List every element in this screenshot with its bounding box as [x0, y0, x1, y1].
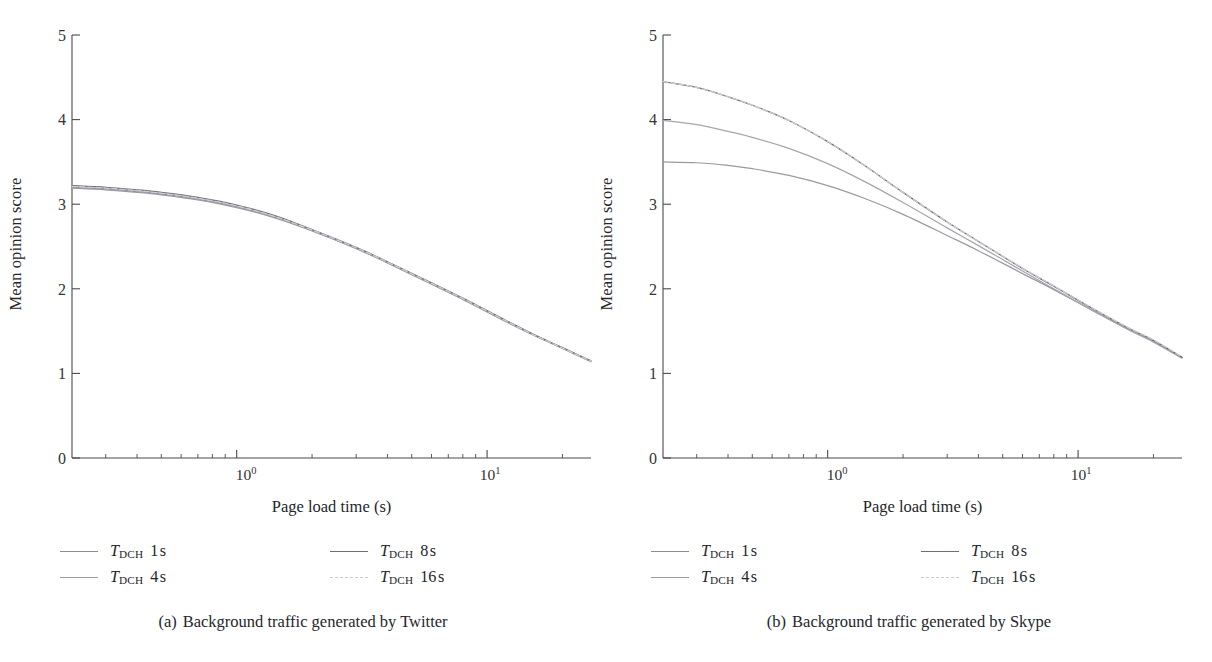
x-tick-label-1e1: 101: [1056, 466, 1106, 484]
y-tick-label-0: 0: [635, 450, 657, 468]
plot-a-xlabel: Page load time (s): [72, 497, 591, 517]
y-tick-label-3: 3: [44, 196, 66, 214]
legend-label-8s: TDCH8s: [971, 542, 1027, 561]
series-line: [72, 187, 591, 361]
legend-swatch-4s: [651, 577, 689, 578]
series-line: [72, 186, 591, 361]
legend-item-1s[interactable]: TDCH1s: [651, 538, 757, 564]
legend-item-8s[interactable]: TDCH8s: [330, 538, 436, 564]
plot-a-axes: [72, 35, 591, 458]
legend-swatch-16s: [921, 577, 959, 578]
y-tick-label-0: 0: [44, 450, 66, 468]
x-tick-label-1e0: 100: [221, 466, 271, 484]
legend-label-1s: TDCH1s: [701, 542, 757, 561]
y-tick-label-2: 2: [635, 281, 657, 299]
plot-a-ylabel: Mean opinion score: [6, 144, 26, 344]
legend-swatch-8s: [921, 551, 959, 552]
y-tick-label-2: 2: [44, 281, 66, 299]
legend-item-4s[interactable]: TDCH4s: [60, 564, 166, 590]
y-tick-label-1: 1: [635, 365, 657, 383]
plot-b-svg: [606, 0, 1212, 500]
series-line: [72, 186, 591, 361]
y-tick-label-3: 3: [635, 196, 657, 214]
legend-swatch-1s: [651, 551, 689, 552]
plot-b-ylabel: Mean opinion score: [597, 144, 617, 344]
legend-item-16s[interactable]: TDCH16s: [330, 564, 444, 590]
legend-label-4s: TDCH4s: [701, 568, 757, 587]
figure-container: Mean opinion score Page load time (s) 5 …: [0, 0, 1212, 662]
series-line: [663, 162, 1182, 357]
x-tick-label-1e0: 100: [812, 466, 862, 484]
plot-a-y-ticks: [72, 35, 80, 458]
plot-b-xlabel: Page load time (s): [663, 497, 1182, 517]
caption-a-text: Background traffic generated by Twitter: [183, 612, 448, 631]
legend-label-8s: TDCH8s: [380, 542, 436, 561]
legend-swatch-16s: [330, 577, 368, 578]
legend-item-4s[interactable]: TDCH4s: [651, 564, 757, 590]
plot-b-axes: [663, 35, 1182, 458]
plot-a-x-ticks: [106, 450, 563, 458]
y-tick-label-1: 1: [44, 365, 66, 383]
legend-label-4s: TDCH4s: [110, 568, 166, 587]
caption-b-text: Background traffic generated by Skype: [792, 612, 1051, 631]
legend-item-8s[interactable]: TDCH8s: [921, 538, 1027, 564]
y-tick-label-4: 4: [635, 111, 657, 129]
series-line: [663, 120, 1182, 358]
legend-swatch-1s: [60, 551, 98, 552]
legend-label-16s: TDCH16s: [380, 568, 444, 587]
plot-a-series: [72, 186, 591, 362]
legend-label-16s: TDCH16s: [971, 568, 1035, 587]
plot-b-x-ticks: [697, 450, 1154, 458]
caption-a: (a)Background traffic generated by Twitt…: [0, 612, 606, 632]
caption-a-tag: (a): [158, 612, 176, 631]
plot-b-series: [663, 82, 1182, 359]
caption-b: (b)Background traffic generated by Skype: [606, 612, 1212, 632]
legend-swatch-8s: [330, 551, 368, 552]
series-line: [72, 188, 591, 361]
plot-b-y-ticks: [663, 35, 671, 458]
legend-label-1s: TDCH1s: [110, 542, 166, 561]
y-tick-label-5: 5: [44, 27, 66, 45]
legend-swatch-4s: [60, 577, 98, 578]
y-tick-label-4: 4: [44, 111, 66, 129]
legend-item-1s[interactable]: TDCH1s: [60, 538, 166, 564]
y-tick-label-5: 5: [635, 27, 657, 45]
plot-b-legend: TDCH1s TDCH4s TDCH8s TDCH16s: [606, 538, 1212, 594]
x-tick-label-1e1: 101: [465, 466, 515, 484]
legend-item-16s[interactable]: TDCH16s: [921, 564, 1035, 590]
panel-a: Mean opinion score Page load time (s) 5 …: [0, 0, 606, 662]
caption-b-tag: (b): [767, 612, 786, 631]
panel-b: Mean opinion score Page load time (s) 5 …: [606, 0, 1212, 662]
plot-a-svg: [0, 0, 606, 500]
plot-a-legend: TDCH1s TDCH4s TDCH8s TDCH16s: [0, 538, 606, 594]
